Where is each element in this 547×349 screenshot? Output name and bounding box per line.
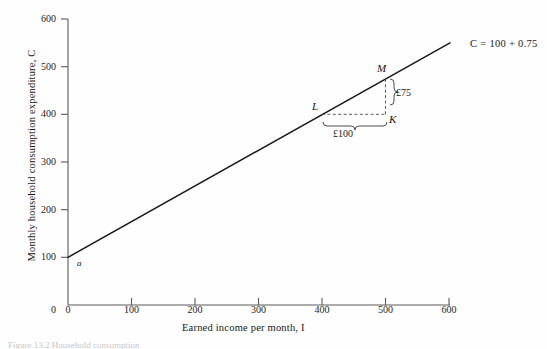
x-tick-label-500: 500 (366, 304, 406, 315)
x-axis-title: Earned income per month, I (182, 322, 305, 333)
consumption-function-line (68, 43, 450, 257)
y-axis-ticks (61, 19, 68, 257)
y-tick-label-400: 400 (22, 108, 56, 119)
figure-caption: Figure 13.2 Household consumption (8, 340, 140, 349)
point-label-M: M (377, 62, 386, 74)
x-tick-label-100: 100 (112, 304, 152, 315)
run-amount-label: £100 (333, 128, 353, 139)
x-tick-label-200: 200 (175, 304, 215, 315)
point-label-L: L (312, 100, 318, 112)
point-label-a: a (77, 258, 82, 268)
x-tick-label-600: 600 (429, 304, 469, 315)
y-tick-label-100: 100 (22, 251, 56, 262)
x-tick-label-300: 300 (239, 304, 279, 315)
consumption-function-equation-label: C = 100 + 0.75 (470, 38, 538, 49)
figure-container: Monthly household consumption expenditur… (0, 0, 547, 349)
y-tick-label-200: 200 (22, 204, 56, 215)
y-tick-label-600: 600 (22, 13, 56, 24)
chart-plot-area (0, 0, 547, 349)
point-label-K: K (389, 113, 396, 125)
x-tick-label-400: 400 (302, 304, 342, 315)
x-tick-label-0: 0 (48, 304, 88, 315)
rise-amount-label: £75 (396, 87, 411, 98)
y-tick-label-500: 500 (22, 61, 56, 72)
y-tick-label-300: 300 (22, 156, 56, 167)
